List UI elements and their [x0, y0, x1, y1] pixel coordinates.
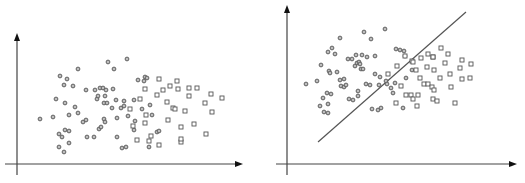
circle-point: [373, 72, 377, 76]
square-point: [439, 46, 443, 50]
square-point: [187, 86, 191, 90]
circle-point: [67, 113, 71, 117]
circle-point: [364, 82, 368, 86]
square-point: [411, 60, 415, 64]
circle-point: [51, 115, 55, 119]
circle-point: [368, 83, 372, 87]
circle-point: [326, 102, 330, 106]
circle-point: [338, 36, 342, 40]
circle-point: [58, 74, 62, 78]
circle-point: [76, 111, 80, 115]
circle-point: [93, 88, 97, 92]
circle-point: [92, 135, 96, 139]
circle-point: [361, 67, 365, 71]
circle-point: [350, 57, 354, 61]
circle-point: [140, 107, 144, 111]
circle-point: [147, 145, 151, 149]
circle-point: [148, 103, 152, 107]
circle-point: [114, 98, 118, 102]
circle-point: [330, 46, 334, 50]
circle-point: [57, 132, 61, 136]
square-point: [128, 107, 132, 111]
circle-point: [326, 50, 330, 54]
square-point: [394, 101, 398, 105]
circle-point: [393, 81, 397, 85]
circle-point: [377, 83, 381, 87]
circle-point: [84, 88, 88, 92]
square-point: [449, 85, 453, 89]
circle-point: [373, 54, 377, 58]
circle-point: [404, 76, 408, 80]
circle-point: [115, 116, 119, 120]
square-point: [176, 87, 180, 91]
decision-boundary-line: [318, 12, 466, 142]
circle-point: [410, 68, 414, 72]
square-point: [419, 56, 423, 60]
square-point: [183, 109, 187, 113]
square-point: [458, 66, 462, 70]
circle-point: [120, 146, 124, 150]
square-point: [468, 76, 472, 80]
circle-point: [57, 145, 61, 149]
circle-point: [342, 77, 346, 81]
square-point: [179, 125, 183, 129]
circle-point: [360, 53, 364, 57]
circle-point: [76, 67, 80, 71]
circle-point: [103, 120, 107, 124]
circle-point: [62, 150, 66, 154]
circle-point: [73, 105, 77, 109]
circle-point: [122, 104, 126, 108]
circle-point: [112, 67, 116, 71]
square-point: [432, 88, 436, 92]
left-data-points: [38, 57, 224, 154]
circle-point: [110, 106, 114, 110]
circle-point: [124, 145, 128, 149]
square-point: [399, 84, 403, 88]
square-point: [411, 97, 415, 101]
circle-point: [346, 57, 350, 61]
circle-point: [383, 27, 387, 31]
square-point: [168, 84, 172, 88]
square-point: [143, 121, 147, 125]
square-point: [143, 87, 147, 91]
circle-point: [62, 83, 66, 87]
circle-point: [354, 53, 358, 57]
square-point: [448, 72, 452, 76]
square-point: [144, 113, 148, 117]
circle-point: [142, 79, 146, 83]
circle-point: [111, 87, 115, 91]
square-point: [453, 101, 457, 105]
circle-point: [104, 88, 108, 92]
circle-point: [362, 30, 366, 34]
circle-point: [326, 111, 330, 115]
circle-point: [99, 125, 103, 129]
square-point: [210, 110, 214, 114]
circle-point: [318, 104, 322, 108]
circle-point: [157, 129, 161, 133]
square-point: [131, 124, 135, 128]
circle-point: [65, 77, 69, 81]
square-point: [404, 93, 408, 97]
right-y-axis-arrow-icon: [284, 5, 290, 13]
square-point: [195, 86, 199, 90]
circle-point: [126, 114, 130, 118]
circle-point: [351, 98, 355, 102]
circle-point: [365, 55, 369, 59]
square-point: [469, 62, 473, 66]
square-point: [147, 139, 151, 143]
circle-point: [322, 110, 326, 114]
circle-point: [63, 128, 67, 132]
circle-point: [402, 49, 406, 53]
circle-point: [125, 57, 129, 61]
left-y-axis-arrow-icon: [14, 33, 20, 41]
right-x-axis-arrow-icon: [509, 161, 517, 167]
circle-point: [379, 106, 383, 110]
circle-point: [328, 71, 332, 75]
square-point: [155, 93, 159, 97]
circle-point: [378, 75, 382, 79]
circle-point: [333, 52, 337, 56]
square-point: [425, 65, 429, 69]
circle-point: [133, 119, 137, 123]
square-point: [403, 54, 407, 58]
circle-point: [96, 94, 100, 98]
